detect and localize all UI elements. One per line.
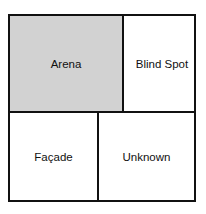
pane-label-facade: Façade — [34, 151, 72, 163]
pane-unknown: Unknown — [99, 113, 194, 200]
pane-label-arena: Arena — [51, 58, 82, 70]
pane-arena: Arena — [10, 16, 124, 113]
pane-blind-spot: Blind Spot — [124, 16, 194, 113]
pane-facade: Façade — [10, 113, 99, 200]
pane-label-blind-spot: Blind Spot — [136, 58, 188, 70]
johari-window-diagram: Arena Blind Spot Façade Unknown — [8, 14, 196, 202]
pane-label-unknown: Unknown — [123, 151, 171, 163]
